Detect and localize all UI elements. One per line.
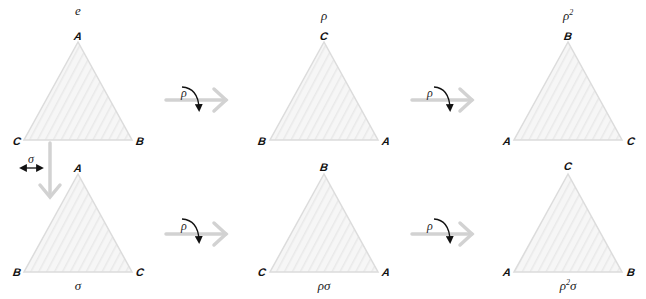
triangle-sigma <box>24 174 132 272</box>
caption-sigma: σ <box>75 279 81 292</box>
operation-label-rho: ρ <box>427 220 433 232</box>
transition-arrow-top-1 <box>166 89 226 111</box>
operation-label-rho: ρ <box>181 220 187 232</box>
vertex-label-apex: C <box>563 161 572 172</box>
caption-rho2-sigma-tail: σ <box>570 278 576 293</box>
rotation-clockwise-icon <box>434 219 450 240</box>
vertex-label-right: B <box>135 136 144 147</box>
vertex-label-left: B <box>257 136 266 147</box>
vertex-label-left: B <box>12 267 21 278</box>
symmetry-diagram <box>0 0 646 299</box>
vertex-label-right: C <box>626 136 635 147</box>
transition-arrow-reflect <box>40 143 60 197</box>
caption-rho2-sigma: ρ2σ <box>560 279 577 292</box>
caption-rho: ρ <box>321 9 327 22</box>
vertex-label-left: C <box>12 136 21 147</box>
vertex-label-right: A <box>381 267 390 278</box>
triangle-rho <box>270 42 378 140</box>
vertex-label-left: A <box>502 267 511 278</box>
vertex-label-apex: A <box>73 163 82 174</box>
triangle-rho2 <box>514 42 622 140</box>
vertex-label-apex: B <box>563 31 572 42</box>
vertex-label-left: C <box>257 267 266 278</box>
transition-arrow-bottom-2 <box>412 223 472 245</box>
caption-rho2: ρ2 <box>563 9 573 22</box>
operation-label-sigma: σ <box>28 153 34 165</box>
caption-rho2-exp: 2 <box>569 8 573 17</box>
vertex-label-right: C <box>135 267 144 278</box>
caption-e: e <box>75 4 81 17</box>
operation-label-rho: ρ <box>427 87 433 99</box>
caption-rho-sigma: ρσ <box>318 279 331 292</box>
vertex-label-left: A <box>502 136 511 147</box>
triangle-rho-sigma <box>270 174 378 272</box>
vertex-label-apex: A <box>73 31 82 42</box>
triangle-e <box>24 42 132 140</box>
vertex-label-apex: C <box>319 31 328 42</box>
vertex-label-right: A <box>381 136 390 147</box>
transition-arrow-top-2 <box>412 89 472 111</box>
rotation-clockwise-icon <box>434 87 450 108</box>
triangle-rho2-sigma <box>514 174 622 272</box>
vertex-label-apex: B <box>319 162 328 173</box>
operation-label-rho: ρ <box>181 87 187 99</box>
vertex-label-right: B <box>626 267 635 278</box>
